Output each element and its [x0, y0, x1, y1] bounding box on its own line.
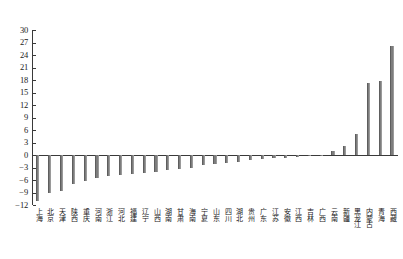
y-tick-label: 30 — [6, 26, 28, 35]
bar — [343, 146, 346, 155]
bar — [107, 155, 110, 176]
category-label: 辽宁 — [141, 208, 148, 221]
category-label: 湖南 — [164, 208, 171, 221]
bar — [60, 155, 63, 191]
category-label: 浙江 — [105, 208, 112, 221]
y-tick-label: 21 — [6, 63, 28, 72]
category-label: 贵州 — [247, 208, 254, 221]
category-label: 山西 — [152, 208, 159, 221]
category-label: 新疆 — [341, 208, 348, 221]
category-label: 山东 — [212, 208, 219, 221]
y-tick-label: 27 — [6, 38, 28, 47]
y-tick-label: −9 — [6, 188, 28, 197]
bar — [355, 134, 358, 155]
bar — [178, 155, 181, 169]
category-label: 上海 — [34, 208, 41, 221]
bar — [261, 155, 264, 159]
bar — [249, 155, 252, 160]
bar — [284, 155, 287, 158]
y-tick-label: −6 — [6, 176, 28, 185]
y-tick — [33, 205, 36, 206]
category-label: 海南 — [188, 208, 195, 221]
bar — [367, 83, 370, 155]
category-label: 宁夏 — [200, 208, 207, 221]
bar — [48, 155, 51, 193]
bar — [379, 81, 382, 155]
bar — [131, 155, 134, 174]
y-tick-label: 9 — [6, 113, 28, 122]
y-tick-label: 24 — [6, 51, 28, 60]
category-labels: 上海北京天津陕西重庆河南浙江河北福建辽宁山西湖南甘肃海南宁夏山东四川湖北贵州广东… — [32, 208, 398, 258]
category-label: 天津 — [58, 208, 65, 221]
category-label: 安徽 — [282, 208, 289, 221]
y-tick-label: 15 — [6, 88, 28, 97]
bar — [225, 155, 228, 163]
category-label: 湖北 — [235, 208, 242, 221]
bar — [190, 155, 193, 168]
category-label: 内蒙古 — [365, 208, 372, 228]
bar — [308, 155, 311, 156]
category-label: 甘肃 — [176, 208, 183, 221]
bar-chart: −12−9−6−3036912151821242730 上海北京天津陕西重庆河南… — [0, 0, 403, 259]
category-label: 福建 — [129, 208, 136, 221]
bar — [119, 155, 122, 175]
bar — [213, 155, 216, 164]
y-tick-label: −3 — [6, 163, 28, 172]
category-label: 河南 — [93, 208, 100, 221]
y-tick-label: 12 — [6, 101, 28, 110]
category-label: 四川 — [223, 208, 230, 221]
category-label: 青海 — [377, 208, 384, 221]
bar — [320, 155, 323, 156]
bar — [237, 155, 240, 162]
category-label: 云南 — [330, 208, 337, 221]
bar — [390, 46, 393, 155]
category-label: 河北 — [117, 208, 124, 221]
bar — [331, 151, 334, 155]
bar — [72, 155, 75, 184]
y-tick-label: 6 — [6, 126, 28, 135]
bar — [296, 155, 299, 157]
y-tick-label: 0 — [6, 151, 28, 160]
bar — [166, 155, 169, 170]
category-label: 北京 — [46, 208, 53, 221]
category-label: 西藏 — [389, 208, 396, 221]
category-label: 陕西 — [70, 208, 77, 221]
bar — [202, 155, 205, 165]
bar — [143, 155, 146, 173]
y-tick-label: −12 — [6, 201, 28, 210]
bar — [36, 155, 39, 201]
bars-layer — [32, 30, 398, 205]
bar — [95, 155, 98, 178]
category-label: 江苏 — [271, 208, 278, 221]
bar — [84, 155, 87, 181]
y-tick-label: 18 — [6, 76, 28, 85]
category-label: 重庆 — [82, 208, 89, 221]
category-label: 广西 — [318, 208, 325, 221]
category-label: 广东 — [259, 208, 266, 221]
category-label: 吉林 — [306, 208, 313, 221]
bar — [272, 155, 275, 158]
bar — [154, 155, 157, 172]
y-tick-label: 3 — [6, 138, 28, 147]
category-label: 黑龙江 — [353, 208, 360, 228]
category-label: 江西 — [294, 208, 301, 221]
